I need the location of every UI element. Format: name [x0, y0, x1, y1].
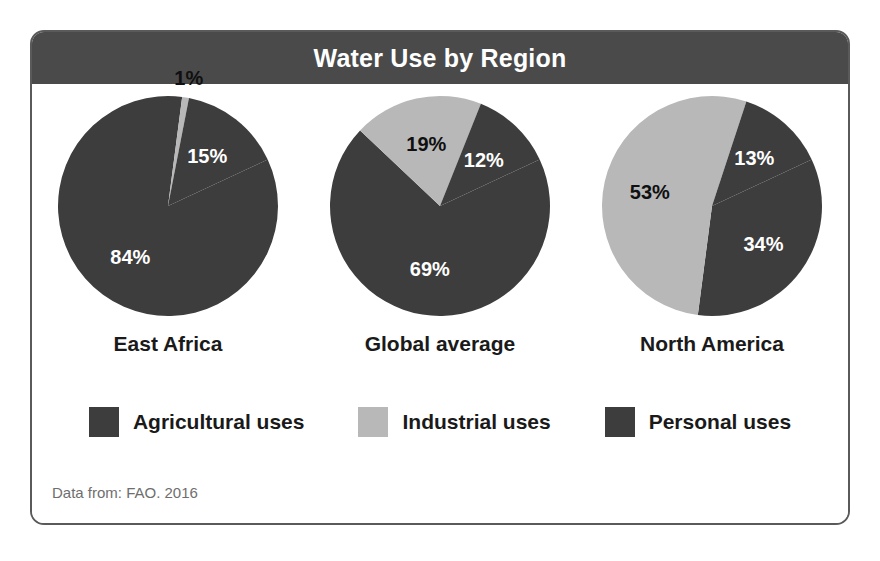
pie-caption: Global average	[365, 332, 516, 356]
chart-card: Water Use by Region 84%1%15%East Africa6…	[30, 30, 850, 525]
chart-header: Water Use by Region	[32, 32, 848, 84]
pie-chart-north-america: 34%53%13%	[597, 90, 827, 322]
pie-svg	[53, 90, 283, 322]
legend-item-agricultural[interactable]: Agricultural uses	[89, 407, 305, 437]
legend-swatch-icon	[358, 407, 388, 437]
pie-caption: East Africa	[114, 332, 223, 356]
pie-block: 84%1%15%East Africa	[43, 90, 293, 356]
chart-legend: Agricultural usesIndustrial usesPersonal…	[32, 392, 848, 452]
legend-item-industrial[interactable]: Industrial uses	[358, 407, 550, 437]
pie-chart-east-africa: 84%1%15%	[53, 90, 283, 322]
legend-swatch-icon	[89, 407, 119, 437]
legend-item-personal[interactable]: Personal uses	[605, 407, 791, 437]
pie-block: 69%19%12%Global average	[315, 90, 565, 356]
chart-title: Water Use by Region	[314, 44, 567, 73]
pie-chart-global-average: 69%19%12%	[325, 90, 555, 322]
pie-charts-row: 84%1%15%East Africa69%19%12%Global avera…	[32, 84, 848, 389]
legend-label: Agricultural uses	[133, 410, 305, 434]
source-note: Data from: FAO. 2016	[52, 484, 198, 501]
chart-body: 84%1%15%East Africa69%19%12%Global avera…	[32, 84, 848, 523]
pie-svg	[597, 90, 827, 322]
pie-block: 34%53%13%North America	[587, 90, 837, 356]
legend-label: Industrial uses	[402, 410, 550, 434]
legend-label: Personal uses	[649, 410, 791, 434]
legend-swatch-icon	[605, 407, 635, 437]
pie-caption: North America	[640, 332, 784, 356]
pie-svg	[325, 90, 555, 322]
